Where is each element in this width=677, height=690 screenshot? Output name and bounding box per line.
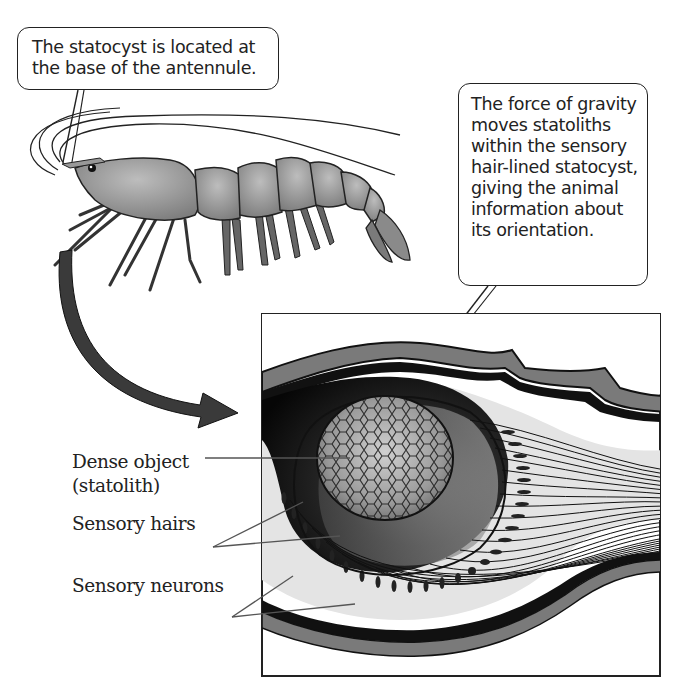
callout-line: within the sensory (471, 136, 647, 157)
callout-gravity-explanation: The force of gravity moves statoliths wi… (458, 83, 648, 286)
callout-line: giving the animal (471, 178, 647, 199)
callout-line: The statocyst is located at (32, 37, 278, 58)
pointer-arrow (59, 250, 238, 428)
label-line: Dense object (72, 450, 189, 474)
label-sensory-neurons: Sensory neurons (72, 574, 224, 598)
callout-line: information about (471, 199, 647, 220)
callout-statocyst-location: The statocyst is located at the base of … (17, 27, 279, 90)
callout-line: moves statoliths (471, 115, 647, 136)
statocyst-cross-section (262, 314, 665, 676)
callout-line: The force of gravity (471, 94, 647, 115)
callout-line: hair-lined statocyst, (471, 157, 647, 178)
shrimp-illustration (31, 108, 410, 290)
label-line: (statolith) (72, 474, 189, 498)
label-sensory-hairs: Sensory hairs (72, 512, 195, 536)
callout-line: the base of the antennule. (32, 58, 278, 79)
callout-line: its orientation. (471, 220, 647, 241)
label-dense-object: Dense object (statolith) (72, 450, 189, 498)
